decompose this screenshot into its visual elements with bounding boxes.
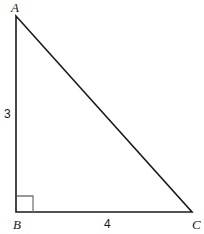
vertex-label-c: C bbox=[192, 218, 201, 231]
vertex-label-a: A bbox=[11, 1, 19, 14]
vertex-label-b: B bbox=[13, 218, 21, 231]
right-angle-marker-icon bbox=[17, 196, 33, 212]
triangle-drawing bbox=[0, 0, 204, 234]
triangle-outline bbox=[16, 16, 192, 212]
side-length-label-ab: 3 bbox=[4, 108, 11, 120]
side-length-label-bc: 4 bbox=[104, 218, 111, 230]
right-triangle-figure: A B C 3 4 bbox=[0, 0, 204, 234]
